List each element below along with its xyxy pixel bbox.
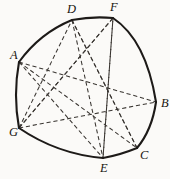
vertex-point-b [155,101,157,103]
vertex-label-group: ADFBCEG [9,0,169,175]
chord-e-f [103,18,113,158]
chord-d-e [72,20,103,158]
vertex-label-g: G [9,125,18,139]
vertex-point-e [102,157,104,159]
vertex-label-a: A [9,48,18,62]
geometry-canvas: ADFBCEG [0,0,170,179]
geometry-figure: ADFBCEG [0,0,170,179]
chord-g-b [19,102,156,128]
vertex-label-c: C [140,148,149,162]
chord-a-c [19,62,137,148]
vertex-point-g [18,127,20,129]
polygon-outline [16,17,156,158]
vertex-point-f [112,17,114,19]
vertex-point-a [18,61,20,63]
vertex-label-e: E [99,161,108,175]
chord-a-b [19,62,156,102]
chord-c-d [72,20,137,148]
vertex-point-c [136,147,138,149]
vertex-label-b: B [161,96,169,110]
chord-a-e [19,62,103,158]
vertex-label-d: D [66,2,76,16]
vertex-point-d [71,19,73,21]
vertex-label-f: F [109,0,118,14]
